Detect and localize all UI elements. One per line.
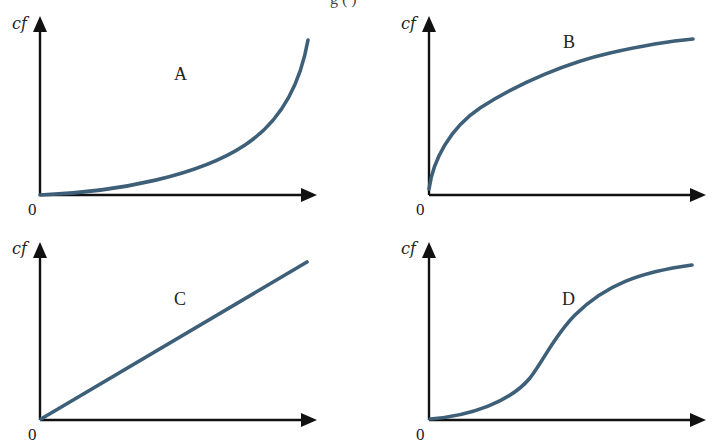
- cropped-header-text: g ( ): [330, 0, 357, 8]
- figure-page: g ( ) cf 0 A cf 0 B: [0, 0, 715, 446]
- origin-label: 0: [416, 425, 425, 444]
- y-axis-arrow-icon: [422, 242, 436, 258]
- x-axis-arrow-icon: [301, 188, 317, 202]
- y-axis-arrow-icon: [33, 16, 47, 32]
- panel-c: cf 0 C: [12, 239, 317, 444]
- origin-label: 0: [28, 425, 37, 444]
- curve-c: [41, 262, 307, 419]
- panel-b: cf 0 B: [401, 14, 706, 219]
- origin-label: 0: [28, 200, 37, 219]
- x-axis-arrow-icon: [690, 413, 706, 427]
- four-panel-chart: g ( ) cf 0 A cf 0 B: [0, 0, 715, 446]
- origin-label: 0: [416, 200, 425, 219]
- y-axis-arrow-icon: [33, 242, 47, 258]
- panel-d: cf 0 D: [401, 239, 706, 444]
- y-axis-label: cf: [12, 14, 30, 33]
- curve-b: [429, 39, 693, 189]
- y-axis-label: cf: [401, 14, 419, 33]
- y-axis-label: cf: [401, 239, 419, 258]
- panel-label: C: [174, 289, 186, 309]
- x-axis-arrow-icon: [690, 188, 706, 202]
- y-axis-label: cf: [12, 239, 30, 258]
- x-axis-arrow-icon: [301, 413, 317, 427]
- curve-d: [430, 265, 692, 419]
- panel-label: D: [562, 289, 575, 309]
- panel-a: cf 0 A: [12, 14, 317, 219]
- panel-label: A: [174, 64, 187, 84]
- y-axis-arrow-icon: [422, 16, 436, 32]
- panel-label: B: [563, 32, 575, 52]
